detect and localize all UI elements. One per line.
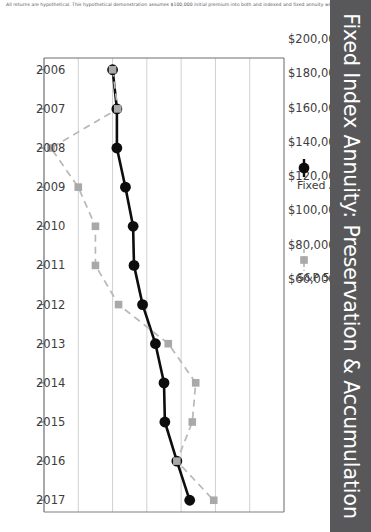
legend-marks bbox=[0, 0, 330, 532]
legend-label: Fixed Annuity bbox=[297, 179, 330, 192]
title-banner: Fixed Index Annuity: Preservation & Accu… bbox=[330, 0, 371, 532]
slide-root: $60,000$80,000$100,000$120,000$140,000$1… bbox=[0, 0, 371, 532]
legend-circle-marker bbox=[299, 163, 310, 174]
chart-legend: Fixed AnnuityS&P 500 bbox=[0, 0, 330, 532]
legend-label: S&P 500 bbox=[297, 271, 330, 284]
page-title: Fixed Index Annuity: Preservation & Accu… bbox=[339, 13, 363, 519]
legend-square-marker bbox=[300, 256, 308, 264]
chart-rotated-container: $60,000$80,000$100,000$120,000$140,000$1… bbox=[0, 0, 330, 532]
chart-area: $60,000$80,000$100,000$120,000$140,000$1… bbox=[0, 0, 330, 532]
chart-stage: $60,000$80,000$100,000$120,000$140,000$1… bbox=[0, 0, 330, 532]
footnote-text: All returns are hypothetical. This hypot… bbox=[6, 2, 330, 8]
